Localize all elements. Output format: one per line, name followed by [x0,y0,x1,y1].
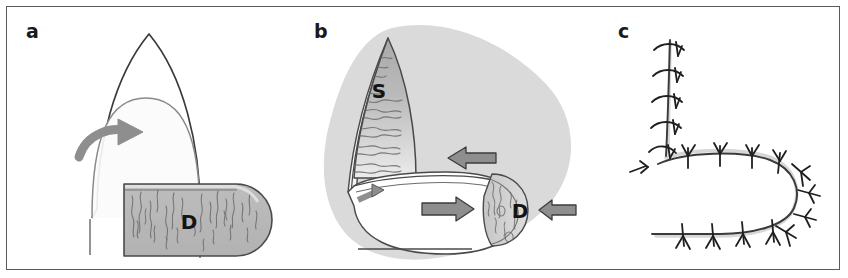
stitch [652,94,682,108]
panel-c: c [596,6,840,270]
region-label-s: S [372,79,386,103]
stitch [798,185,820,203]
stitch-group-curve [776,164,820,246]
panel-a: D a [6,6,296,270]
d-lobe [124,184,272,256]
stitch-group-vertical [630,42,684,173]
panel-label-a: a [26,22,39,41]
stitch [630,161,648,173]
figure-root: D a [0,0,848,278]
region-label-d-b: D [512,199,529,223]
panel-b-illustration: S D [296,6,596,270]
region-label-d: D [181,210,198,234]
panel-label-c: c [618,22,629,41]
suture-line-horseshoe [652,154,797,234]
panel-label-b: b [314,22,328,41]
stitch [649,145,676,158]
panel-a-illustration: D [6,6,296,270]
stitch [794,209,816,227]
panel-b: S D b [296,6,596,270]
panel-c-illustration [596,6,840,270]
stitch [651,120,681,134]
